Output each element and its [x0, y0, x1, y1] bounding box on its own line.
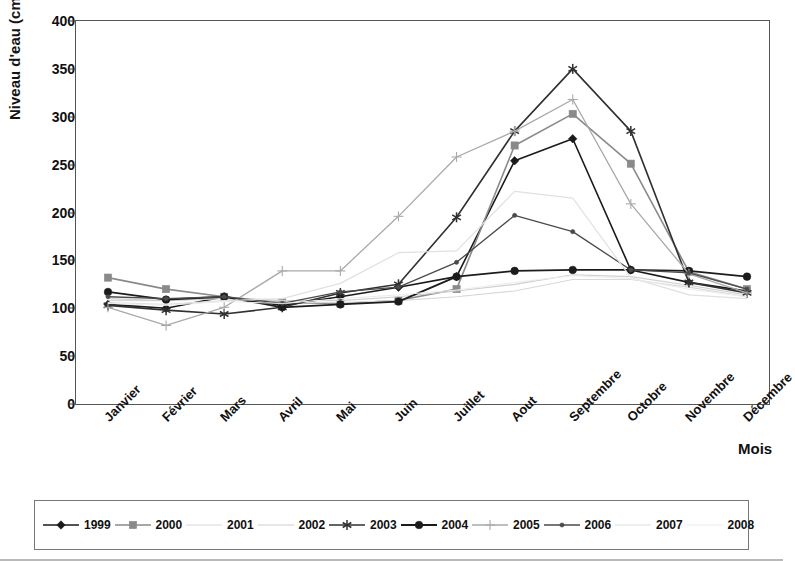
legend-label-2003: 2003	[370, 518, 397, 532]
marker-square	[511, 142, 518, 149]
marker-diamond	[57, 521, 65, 529]
series-2004	[104, 266, 751, 311]
series-canvas	[76, 21, 769, 404]
legend-sample-2006	[542, 519, 582, 531]
legend-sample-2005	[470, 519, 510, 531]
legend-label-2006: 2006	[585, 518, 612, 532]
series-line	[108, 69, 747, 314]
marker-dot	[629, 268, 633, 272]
marker-dot	[454, 260, 458, 264]
legend-label-2001: 2001	[227, 518, 254, 532]
chart-figure: Niveau d'eau (cm) 0501001502002503003504…	[0, 0, 783, 490]
legend-label-2002: 2002	[299, 518, 326, 532]
legend-sample-1999	[41, 519, 81, 531]
legend-item-2004[interactable]: 2004	[399, 515, 469, 535]
legend-item-2007[interactable]: 2007	[613, 515, 683, 535]
marker-dot	[745, 287, 749, 291]
legend-sample-2003	[327, 519, 367, 531]
marker-diamond	[569, 135, 577, 143]
legend-sample-2000	[113, 519, 153, 531]
legend-sample-2007	[613, 519, 653, 531]
series-2000	[104, 110, 750, 307]
marker-circle	[511, 267, 519, 275]
legend-label-2000: 2000	[156, 518, 183, 532]
legend-item-2001[interactable]: 2001	[184, 515, 254, 535]
legend-item-2003[interactable]: 2003	[327, 515, 397, 535]
plot-area	[75, 20, 770, 405]
legend-sample-2002	[256, 519, 296, 531]
legend-sample-2001	[184, 519, 224, 531]
series-2003	[104, 64, 752, 319]
marker-square	[162, 286, 169, 293]
x-axis-tick-labels: JanvierFévrierMarsAvrilMaiJuinJuilletAou…	[0, 406, 783, 486]
legend: 1999200020012002200320042005200620072008	[34, 500, 749, 550]
series-line	[108, 139, 747, 308]
legend-label-2005: 2005	[513, 518, 540, 532]
marker-dot	[687, 271, 691, 275]
marker-circle	[453, 273, 461, 281]
marker-circle	[743, 273, 751, 281]
legend-item-1999[interactable]: 1999	[41, 515, 111, 535]
legend-item-2008[interactable]: 2008	[685, 515, 755, 535]
series-2007	[108, 191, 747, 304]
marker-dot	[571, 230, 575, 234]
series-1999	[104, 135, 751, 313]
legend-label-2004: 2004	[442, 518, 469, 532]
legend-label-2007: 2007	[656, 518, 683, 532]
marker-circle	[569, 266, 577, 274]
marker-circle	[415, 521, 423, 529]
y-axis: 050100150200250300350400	[0, 20, 75, 406]
marker-dot	[338, 290, 342, 294]
marker-dot	[396, 285, 400, 289]
legend-item-2002[interactable]: 2002	[256, 515, 326, 535]
legend-label-2008: 2008	[728, 518, 755, 532]
series-line	[108, 100, 747, 326]
marker-circle	[395, 298, 403, 306]
marker-dot	[513, 213, 517, 217]
marker-square	[569, 110, 576, 117]
legend-item-2000[interactable]: 2000	[113, 515, 183, 535]
legend-items-container: 1999200020012002200320042005200620072008	[35, 501, 748, 549]
marker-dot	[222, 295, 226, 299]
legend-item-2006[interactable]: 2006	[542, 515, 612, 535]
series-2002	[108, 275, 747, 301]
series-line	[108, 191, 747, 304]
legend-item-2005[interactable]: 2005	[470, 515, 540, 535]
marker-diamond	[510, 157, 518, 165]
marker-circle	[337, 301, 345, 309]
marker-dot	[559, 523, 563, 527]
x-axis-title: Mois	[738, 440, 772, 457]
legend-sample-2004	[399, 519, 439, 531]
legend-sample-2008	[685, 519, 725, 531]
marker-square	[129, 521, 136, 528]
series-line	[108, 275, 747, 301]
legend-label-1999: 1999	[84, 518, 111, 532]
marker-square	[104, 274, 111, 281]
marker-dot	[164, 297, 168, 301]
marker-square	[627, 160, 634, 167]
marker-dot	[106, 295, 110, 299]
series-2006	[106, 213, 749, 305]
